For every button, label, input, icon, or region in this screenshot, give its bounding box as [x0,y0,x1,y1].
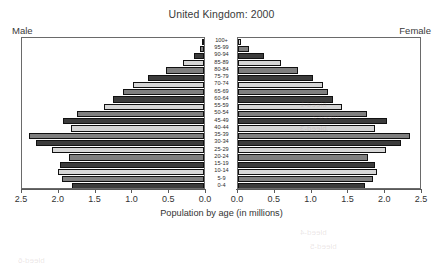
bar-female-100+ [238,39,241,45]
bar-row [238,168,420,175]
x-tick-label-0.0: 0.0 [190,194,220,204]
bar-row [22,45,204,52]
bar-row [22,103,204,110]
bar-male-50-54 [77,111,204,117]
bar-row [22,147,204,154]
bar-row [238,154,420,161]
x-tick-label-2.0: 2.0 [369,194,399,204]
x-tick-label-2.5: 2.5 [406,194,436,204]
bar-female-95-99 [238,46,249,52]
age-label-80-84: 80-84 [205,66,238,73]
bar-row [238,110,420,117]
bar-male-5-9 [62,176,204,182]
bar-female-85-89 [238,60,281,66]
x-tick [384,189,385,193]
bar-female-15-19 [238,162,375,168]
x-tick [237,189,238,193]
x-tick [421,189,422,193]
bar-row [238,52,420,59]
bar-female-20-24 [238,154,368,160]
x-tick-label-1.5: 1.5 [332,194,362,204]
bar-male-75-79 [148,75,204,81]
x-tick [274,189,275,193]
bar-row [238,81,420,88]
age-label-20-24: 20-24 [205,153,238,160]
x-tick-label-2.0: 2.0 [43,194,73,204]
bar-row [238,161,420,168]
bar-male-25-29 [52,147,204,153]
male-caption: Male [12,25,33,36]
bar-female-5-9 [238,176,373,182]
bar-row [22,168,204,175]
bar-female-55-59 [238,104,342,110]
x-tick [347,189,348,193]
x-tick [21,189,22,193]
bar-male-15-19 [60,162,204,168]
bar-row [238,118,420,125]
bar-female-90-94 [238,53,264,59]
bar-male-55-59 [104,104,204,110]
scan-artifact: bleed-5 [310,242,337,251]
bar-row [22,96,204,103]
bar-female-40-44 [238,125,375,131]
age-label-35-39: 35-39 [205,131,238,138]
bar-row [238,103,420,110]
female-bars-panel [237,37,421,189]
bar-male-80-84 [166,67,204,73]
age-label-30-34: 30-34 [205,138,238,145]
bar-row [22,110,204,117]
bar-female-45-49 [238,118,387,124]
bar-female-30-34 [238,140,401,146]
age-label-60-64: 60-64 [205,95,238,102]
population-pyramid-figure: United Kingdom: 2000 Male Female 100+95-… [0,0,443,269]
age-label-55-59: 55-59 [205,102,238,109]
x-tick [168,189,169,193]
bar-row [22,38,204,45]
age-label-40-44: 40-44 [205,124,238,131]
age-label-65-69: 65-69 [205,88,238,95]
bar-row [238,176,420,183]
x-tick [131,189,132,193]
scan-artifact: bleed-4 [300,228,327,237]
age-label-100+: 100+ [205,37,238,44]
x-tick-label-0.0: 0.0 [222,194,252,204]
bar-male-45-49 [63,118,204,124]
bar-row [22,81,204,88]
bar-row [238,38,420,45]
age-label-10-14: 10-14 [205,167,238,174]
bar-row [238,132,420,139]
male-bars-panel [21,37,205,189]
bar-row [238,74,420,81]
bar-row [238,45,420,52]
age-label-0-4: 0-4 [205,182,238,189]
bar-female-65-69 [238,89,328,95]
bar-male-40-44 [71,125,204,131]
bar-row [22,176,204,183]
x-tick [95,189,96,193]
bar-row [238,125,420,132]
bar-male-10-14 [58,169,204,175]
x-tick-label-2.5: 2.5 [6,194,36,204]
bar-male-100+ [202,39,204,45]
female-caption: Female [399,25,431,36]
x-tick [205,189,206,193]
bar-row [238,60,420,67]
x-tick-label-1.0: 1.0 [296,194,326,204]
scan-artifact: bleed-6 [18,256,45,265]
bar-male-90-94 [194,53,204,59]
bar-row [22,132,204,139]
x-tick [58,189,59,193]
bar-male-95-99 [200,46,204,52]
bar-row [22,52,204,59]
chart-title: United Kingdom: 2000 [0,8,443,20]
bar-female-35-39 [238,133,410,139]
x-tick-label-1.0: 1.0 [116,194,146,204]
bar-female-50-54 [238,111,367,117]
age-label-95-99: 95-99 [205,44,238,51]
bar-row [22,154,204,161]
bar-row [238,96,420,103]
x-tick [311,189,312,193]
age-label-90-94: 90-94 [205,51,238,58]
bar-row [22,60,204,67]
bar-female-60-64 [238,96,333,102]
